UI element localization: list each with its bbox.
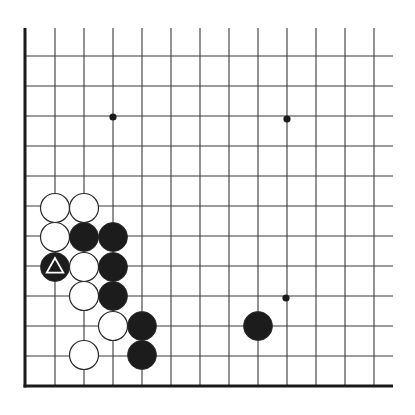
black-stone-icon [99,223,128,252]
white-stone-icon [41,223,70,252]
white-stone [41,223,70,252]
star-point-icon [283,115,290,122]
white-stone-icon [41,194,70,223]
white-stone [99,312,128,341]
white-stone-icon [99,312,128,341]
star-point-icon [282,294,289,301]
white-stone [70,341,99,370]
black-stone-icon [70,223,99,252]
white-stone-icon [70,253,99,282]
black-stone [128,312,157,341]
black-stone-icon [99,282,128,311]
stones [41,194,273,370]
black-stone-icon [244,312,273,341]
black-stone [99,253,128,282]
black-stone [99,282,128,311]
black-stone [99,223,128,252]
white-stone [41,194,70,223]
white-stone [70,282,99,311]
white-stone [70,253,99,282]
black-stone [70,223,99,252]
go-board [0,0,415,415]
star-point-icon [109,113,116,120]
black-stone [128,341,157,370]
black-stone-icon [99,253,128,282]
black-stone [41,253,70,282]
white-stone-icon [70,282,99,311]
white-stone [70,194,99,223]
white-stone-icon [70,194,99,223]
black-stone [244,312,273,341]
white-stone-icon [70,341,99,370]
black-stone-icon [128,341,157,370]
black-stone-icon [128,312,157,341]
